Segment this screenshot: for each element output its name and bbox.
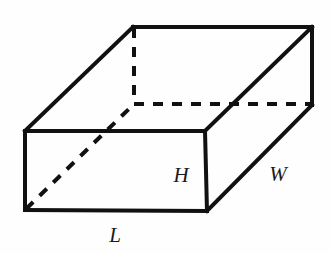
height-label: H — [173, 165, 188, 186]
length-label: L — [109, 225, 121, 246]
edge-front-face-bottom — [25, 210, 207, 211]
prism-figure: H W L — [0, 0, 331, 254]
edge-front-face-right — [205, 131, 207, 211]
width-label: W — [269, 164, 287, 185]
figure-background — [0, 0, 331, 254]
prism-wireframe-svg — [0, 0, 331, 254]
